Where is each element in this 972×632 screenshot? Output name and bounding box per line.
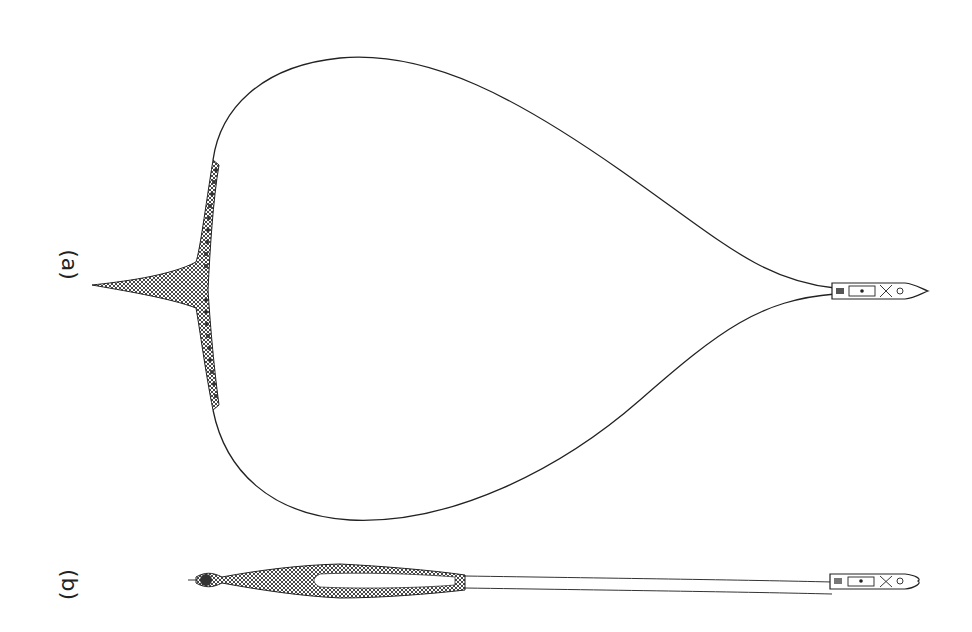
boat-b <box>830 574 919 589</box>
panel-b-net <box>188 564 919 598</box>
tow-line-b-top <box>465 576 832 582</box>
panel-a-net <box>92 57 928 520</box>
net-wall-a <box>92 160 219 410</box>
net-outline-a <box>213 57 835 288</box>
boat-a <box>832 283 928 299</box>
tow-line-b-bottom <box>465 588 832 594</box>
purse-seine-diagram <box>0 0 972 632</box>
